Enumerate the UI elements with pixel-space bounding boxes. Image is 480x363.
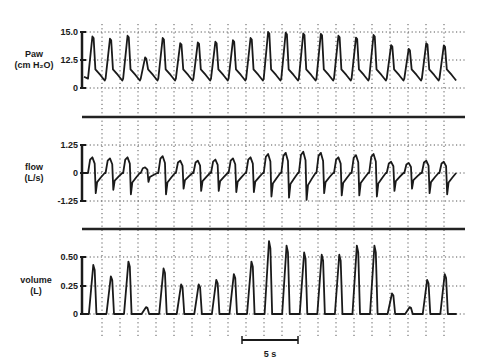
volume-ylabel-line2: (L): [30, 286, 42, 296]
volume-trace: [84, 241, 457, 314]
panel-paw: Paw (cm H₂O) 15.0 12.5 0: [14, 27, 465, 93]
scale-bar-label: 5 s: [264, 349, 277, 359]
paw-ytick-top: 15.0: [60, 27, 78, 37]
ventilator-waveform-figure: Paw (cm H₂O) 15.0 12.5 0 flow (L/s) 1.25…: [0, 0, 480, 363]
flow-ylabel-line2: (L/s): [25, 173, 44, 183]
paw-ylabel-line2: (cm H₂O): [14, 60, 53, 70]
volume-ytick-top: 0.50: [60, 252, 78, 262]
time-scale-bar: 5 s: [242, 336, 298, 359]
panel-flow: flow (L/s) 1.25 0 -1.25: [25, 140, 466, 206]
volume-ytick-bottom: 0: [73, 309, 78, 319]
paw-trace: [84, 32, 456, 81]
flow-ytick-top: 1.25: [60, 140, 78, 150]
paw-ylabel-line1: Paw: [25, 49, 44, 59]
paw-ytick-bottom: 0: [73, 83, 78, 93]
volume-ylabel-line1: volume: [20, 275, 52, 285]
flow-ytick-mid: 0: [73, 168, 78, 178]
flow-ylabel-line1: flow: [25, 162, 44, 172]
flow-trace: [84, 152, 456, 200]
flow-ytick-bottom: -1.25: [57, 196, 78, 206]
volume-ytick-mid: 0.25: [60, 281, 78, 291]
panel-volume: volume (L) 0.50 0.25 0: [20, 241, 465, 319]
waveform-plot: Paw (cm H₂O) 15.0 12.5 0 flow (L/s) 1.25…: [0, 0, 480, 363]
paw-ytick-mid: 12.5: [60, 55, 78, 65]
